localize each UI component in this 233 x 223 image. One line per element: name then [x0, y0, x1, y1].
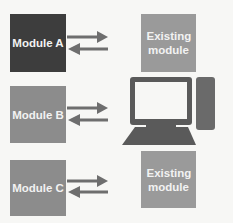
arrow-right-icon — [67, 31, 108, 43]
arrow-left-icon — [68, 43, 108, 55]
arrow-left-icon — [68, 114, 108, 126]
arrow-pair-b — [67, 102, 108, 126]
arrow-right-icon — [67, 102, 108, 114]
arrow-left-icon — [68, 186, 108, 198]
computer-icon — [122, 77, 215, 145]
diagram-graphics — [0, 0, 233, 223]
arrow-pair-a — [67, 31, 108, 55]
arrow-pair-c — [67, 175, 108, 198]
arrow-right-icon — [67, 175, 108, 187]
